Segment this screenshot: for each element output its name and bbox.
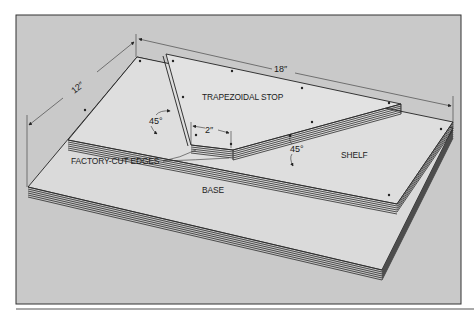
screw-dot: [388, 194, 390, 196]
screw-dot: [195, 134, 197, 136]
label-factory-cut-edges: FACTORY-CUT EDGES: [71, 156, 160, 166]
angle-stop-label: 45°: [149, 116, 163, 126]
dim-2-label: 2″: [205, 125, 214, 135]
screw-dot: [172, 60, 174, 62]
screw-dot: [388, 102, 390, 104]
angle-shelf-label: 45°: [290, 144, 304, 154]
screw-dot: [311, 121, 313, 123]
screw-dot: [301, 87, 303, 89]
screw-dot: [231, 70, 233, 72]
screw-dot: [440, 128, 442, 130]
label-trapezoidal-stop: TRAPEZOIDAL STOP: [202, 92, 284, 102]
jig-diagram: 12″ 18″ 2″ 45° 45° TRAPEZOIDAL STOP SHEL…: [0, 0, 474, 317]
dim-18-label: 18″: [274, 64, 288, 74]
label-base: BASE: [202, 185, 224, 195]
screw-dot: [84, 109, 86, 111]
screw-dot: [139, 60, 141, 62]
screw-dot: [182, 96, 184, 98]
label-shelf: SHELF: [341, 150, 368, 160]
